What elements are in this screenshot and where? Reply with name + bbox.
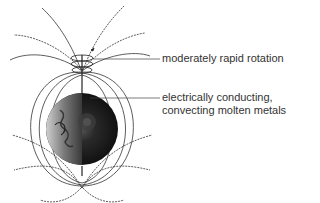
core-label-line1: electrically conducting, bbox=[162, 91, 286, 104]
rotation-label: moderately rapid rotation bbox=[162, 52, 284, 65]
core-label: electrically conducting, convecting molt… bbox=[162, 91, 286, 116]
core-label-line2: convecting molten metals bbox=[162, 104, 286, 117]
earth-globe bbox=[46, 93, 118, 165]
